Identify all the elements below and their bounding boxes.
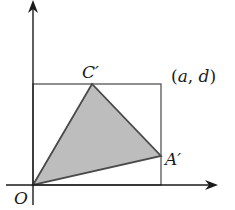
- vertex-c-label: C′: [82, 62, 99, 82]
- origin-label: O: [14, 188, 28, 208]
- shaded-triangle: [33, 84, 161, 185]
- corner-coordinate-label: (a, d): [171, 66, 216, 86]
- vertex-a-label: A′: [163, 149, 181, 169]
- diagram-canvas: O C′ A′ (a, d): [0, 0, 235, 210]
